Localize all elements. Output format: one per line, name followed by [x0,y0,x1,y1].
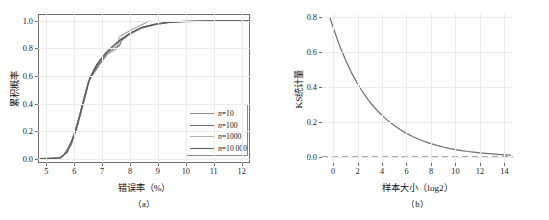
gridline-vertical [130,14,131,163]
legend-swatch-n1000 [190,136,214,137]
y-tick-label: 0.8 [296,13,317,22]
x-axis-title-b: 样本大小（log2） [382,180,452,194]
legend-swatch-n100 [190,125,214,126]
x-tick-label: 6 [72,167,76,176]
y-tick-mark [35,48,38,49]
gridline-vertical [158,14,159,163]
y-tick-label: 0.4 [296,83,317,92]
gridline-horizontal [38,76,250,77]
legend-label-n10: n=10 [218,109,234,118]
x-tick-mark [214,163,215,166]
y-tick-label: 0.6 [12,72,33,81]
x-tick-mark [333,163,334,166]
x-tick-label: 14 [500,167,508,176]
legend-label-n100: n=100 [218,121,237,130]
y-tick-label: 0.2 [296,118,317,127]
gridline-vertical [431,14,432,163]
x-tick-mark [382,163,383,166]
x-tick-mark [242,163,243,166]
y-tick-mark [35,76,38,77]
x-tick-label: 8 [429,167,433,176]
y-tick-mark [319,17,322,18]
gridline-vertical [406,14,407,163]
x-tick-mark [455,163,456,166]
legend-swatch-n10 [190,113,214,114]
y-tick-label: 0.4 [12,99,33,108]
x-tick-label: 5 [44,167,48,176]
gridline-horizontal [322,87,513,88]
legend-item-n10: n=10 [190,108,244,120]
x-tick-mark [158,163,159,166]
x-tick-label: 8 [128,167,132,176]
y-tick-mark [35,131,38,132]
y-tick-label: 0.0 [12,154,33,163]
legend-item-n100: n=100 [190,120,244,132]
x-axis-title-a: 错误率（%） [118,180,171,194]
legend-item-n1000: n=1000 [190,131,244,143]
panel-a: 累积概率 错误率（%） （a） n=10 n=100 n=1000 n=10 0… [0,0,280,220]
gridline-vertical [382,14,383,163]
x-tick-mark [102,163,103,166]
x-tick-label: 11 [210,167,218,176]
x-tick-mark [186,163,187,166]
gridline-horizontal [322,52,513,53]
x-tick-mark [358,163,359,166]
gridline-vertical [214,14,215,163]
legend-item-n10000: n=10 000 [190,143,244,155]
y-tick-label: 0.6 [296,48,317,57]
x-tick-label: 2 [355,167,359,176]
y-tick-label: 0.2 [12,127,33,136]
x-tick-label: 9 [156,167,160,176]
legend-label-n1000: n=1000 [218,132,241,141]
x-tick-label: 7 [100,167,104,176]
x-tick-mark [431,163,432,166]
x-tick-label: 4 [380,167,384,176]
gridline-vertical [504,14,505,163]
panel-b-caption: （b） [406,197,428,209]
gridline-vertical [102,14,103,163]
gridline-horizontal [322,17,513,18]
y-tick-mark [319,52,322,53]
x-tick-label: 12 [237,167,245,176]
gridline-vertical [358,14,359,163]
gridline-horizontal [38,131,250,132]
gridline-horizontal [38,104,250,105]
x-tick-label: 10 [451,167,459,176]
gridline-vertical [46,14,47,163]
x-tick-mark [74,163,75,166]
y-tick-mark [319,87,322,88]
gridline-vertical [333,14,334,163]
panel-a-caption: （a） [133,197,155,209]
y-tick-label: 0.0 [296,152,317,161]
gridline-vertical [480,14,481,163]
y-tick-mark [35,159,38,160]
x-tick-mark [504,163,505,166]
panel-b: KS统计量 样本大小（log2） （b） 024681012140.00.20.… [280,0,549,220]
x-tick-mark [406,163,407,166]
x-tick-label: 6 [404,167,408,176]
gridline-horizontal [38,159,250,160]
gridline-vertical [455,14,456,163]
figure-container: 累积概率 错误率（%） （a） n=10 n=100 n=1000 n=10 0… [0,0,549,220]
y-tick-mark [319,122,322,123]
y-tick-mark [35,104,38,105]
legend-swatch-n10000 [190,148,214,149]
gridline-vertical [74,14,75,163]
y-tick-label: 1.0 [12,16,33,25]
x-tick-label: 12 [476,167,484,176]
series-line [41,21,150,159]
gridline-horizontal [38,21,250,22]
x-tick-label: 10 [182,167,190,176]
x-tick-label: 0 [331,167,335,176]
gridline-horizontal [38,48,250,49]
y-tick-mark [319,157,322,158]
gridline-vertical [242,14,243,163]
x-tick-mark [480,163,481,166]
x-tick-mark [130,163,131,166]
x-tick-mark [46,163,47,166]
y-tick-mark [35,21,38,22]
y-tick-label: 0.8 [12,44,33,53]
gridline-horizontal [322,157,513,158]
gridline-horizontal [322,122,513,123]
legend-a: n=10 n=100 n=1000 n=10 000 [186,104,248,156]
